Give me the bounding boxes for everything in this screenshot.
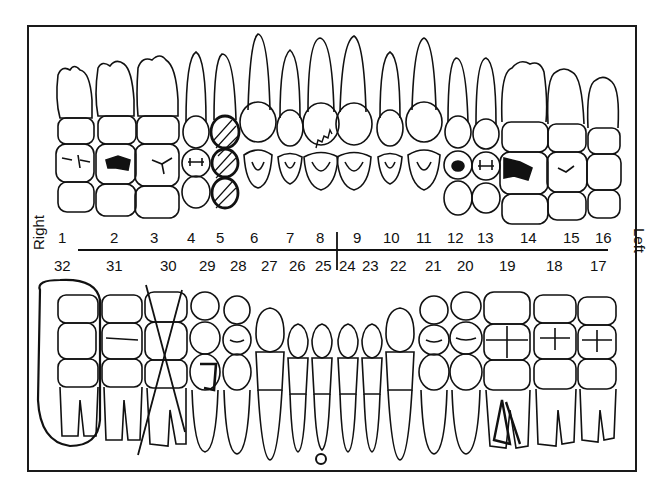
tooth-number-25: 25 bbox=[315, 258, 332, 273]
tooth-number-23: 23 bbox=[362, 258, 379, 273]
tooth-number-18: 18 bbox=[546, 258, 563, 273]
tooth-number-30: 30 bbox=[160, 258, 177, 273]
tooth-number-27: 27 bbox=[261, 258, 278, 273]
tooth-number-2: 2 bbox=[110, 230, 118, 245]
tooth-23 bbox=[362, 324, 382, 452]
left-side-label: Left bbox=[631, 228, 648, 253]
tooth-number-6: 6 bbox=[250, 230, 258, 245]
tooth-27 bbox=[256, 308, 284, 460]
tooth-3 bbox=[135, 56, 179, 218]
tooth-25 bbox=[312, 324, 332, 464]
tooth-7 bbox=[277, 50, 303, 184]
tooth-number-19: 19 bbox=[499, 258, 516, 273]
tooth-12 bbox=[444, 58, 472, 215]
tooth-30 bbox=[138, 285, 187, 455]
dental-chart-drawing bbox=[0, 0, 658, 500]
tooth-number-24: 24 bbox=[339, 258, 356, 273]
tooth-number-26: 26 bbox=[289, 258, 306, 273]
tooth-6 bbox=[240, 34, 276, 188]
tooth-32 bbox=[38, 280, 100, 446]
tooth-13 bbox=[472, 58, 500, 213]
tooth-24 bbox=[338, 324, 358, 452]
tooth-1 bbox=[56, 67, 94, 213]
tooth-29 bbox=[190, 292, 220, 452]
tooth-14 bbox=[500, 62, 548, 224]
tooth-number-28: 28 bbox=[230, 258, 247, 273]
upper-arch bbox=[56, 34, 621, 224]
tooth-number-9: 9 bbox=[353, 230, 361, 245]
tooth-number-13: 13 bbox=[477, 230, 494, 245]
tooth-9 bbox=[336, 36, 372, 190]
tooth-number-12: 12 bbox=[447, 230, 464, 245]
tooth-26 bbox=[288, 324, 308, 452]
right-side-label: Right bbox=[30, 215, 47, 250]
tooth-number-10: 10 bbox=[383, 230, 400, 245]
tooth-19 bbox=[484, 292, 530, 448]
tooth-17 bbox=[578, 297, 616, 442]
tooth-number-5: 5 bbox=[216, 230, 224, 245]
tooth-number-17: 17 bbox=[590, 258, 607, 273]
tooth-number-20: 20 bbox=[457, 258, 474, 273]
tooth-number-7: 7 bbox=[286, 230, 294, 245]
tooth-number-15: 15 bbox=[563, 230, 580, 245]
tooth-number-14: 14 bbox=[520, 230, 537, 245]
tooth-number-32: 32 bbox=[54, 258, 71, 273]
tooth-number-11: 11 bbox=[416, 230, 432, 245]
tooth-number-29: 29 bbox=[199, 258, 216, 273]
tooth-18 bbox=[534, 295, 576, 446]
tooth-4 bbox=[182, 52, 210, 208]
tooth-number-3: 3 bbox=[150, 230, 158, 245]
tooth-number-8: 8 bbox=[316, 230, 324, 245]
tooth-number-16: 16 bbox=[595, 230, 612, 245]
tooth-number-21: 21 bbox=[425, 258, 442, 273]
tooth-number-4: 4 bbox=[187, 230, 195, 245]
tooth-22 bbox=[386, 308, 414, 460]
tooth-11 bbox=[406, 38, 442, 190]
tooth-28 bbox=[223, 296, 251, 454]
lower-arch bbox=[38, 280, 616, 464]
tooth-number-22: 22 bbox=[390, 258, 407, 273]
tooth-20 bbox=[450, 292, 482, 454]
tooth-16 bbox=[587, 77, 621, 218]
tooth-10 bbox=[377, 52, 403, 184]
tooth-number-31: 31 bbox=[106, 258, 123, 273]
tooth-8 bbox=[303, 38, 339, 190]
tooth-15 bbox=[547, 69, 587, 220]
tooth-5 bbox=[211, 54, 239, 208]
tooth-31 bbox=[102, 295, 142, 440]
tooth-21 bbox=[419, 296, 449, 454]
tooth-2 bbox=[96, 61, 136, 216]
tooth-number-1: 1 bbox=[58, 230, 66, 245]
